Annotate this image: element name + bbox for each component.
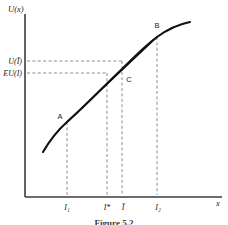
x-tick-label-i-bar: Ī xyxy=(121,203,126,212)
point-label-b: B xyxy=(154,21,159,30)
utility-curve-chart: U(x) x U(Ī) EU(I) I₁ I* Ī I₂ A B C xyxy=(0,0,228,225)
y-axis-label: U(x) xyxy=(8,4,24,14)
figure-caption: Figure 5.2 xyxy=(95,218,134,225)
point-label-a: A xyxy=(57,112,62,121)
y-tick-label-u-ibar: U(Ī) xyxy=(8,57,22,66)
axes-group xyxy=(25,14,222,197)
x-tick-label-i-star: I* xyxy=(103,203,111,212)
x-tick-label-i1: I₁ xyxy=(63,203,70,212)
figure-caption-svg: Figure 5.2 xyxy=(0,217,228,225)
utility-curve-group xyxy=(43,22,190,152)
guide-lines-group xyxy=(27,37,157,195)
x-axis-label: x xyxy=(215,198,220,208)
point-label-c: C xyxy=(126,75,132,84)
utility-curve-path xyxy=(43,22,190,152)
figure-caption-clip: Figure 5.2 xyxy=(0,217,228,225)
x-tick-label-i2: I₂ xyxy=(154,203,161,212)
y-tick-label-eu-i: EU(I) xyxy=(2,69,22,78)
figure-container: U(x) x U(Ī) EU(I) I₁ I* Ī I₂ A B C Figur… xyxy=(0,0,228,225)
